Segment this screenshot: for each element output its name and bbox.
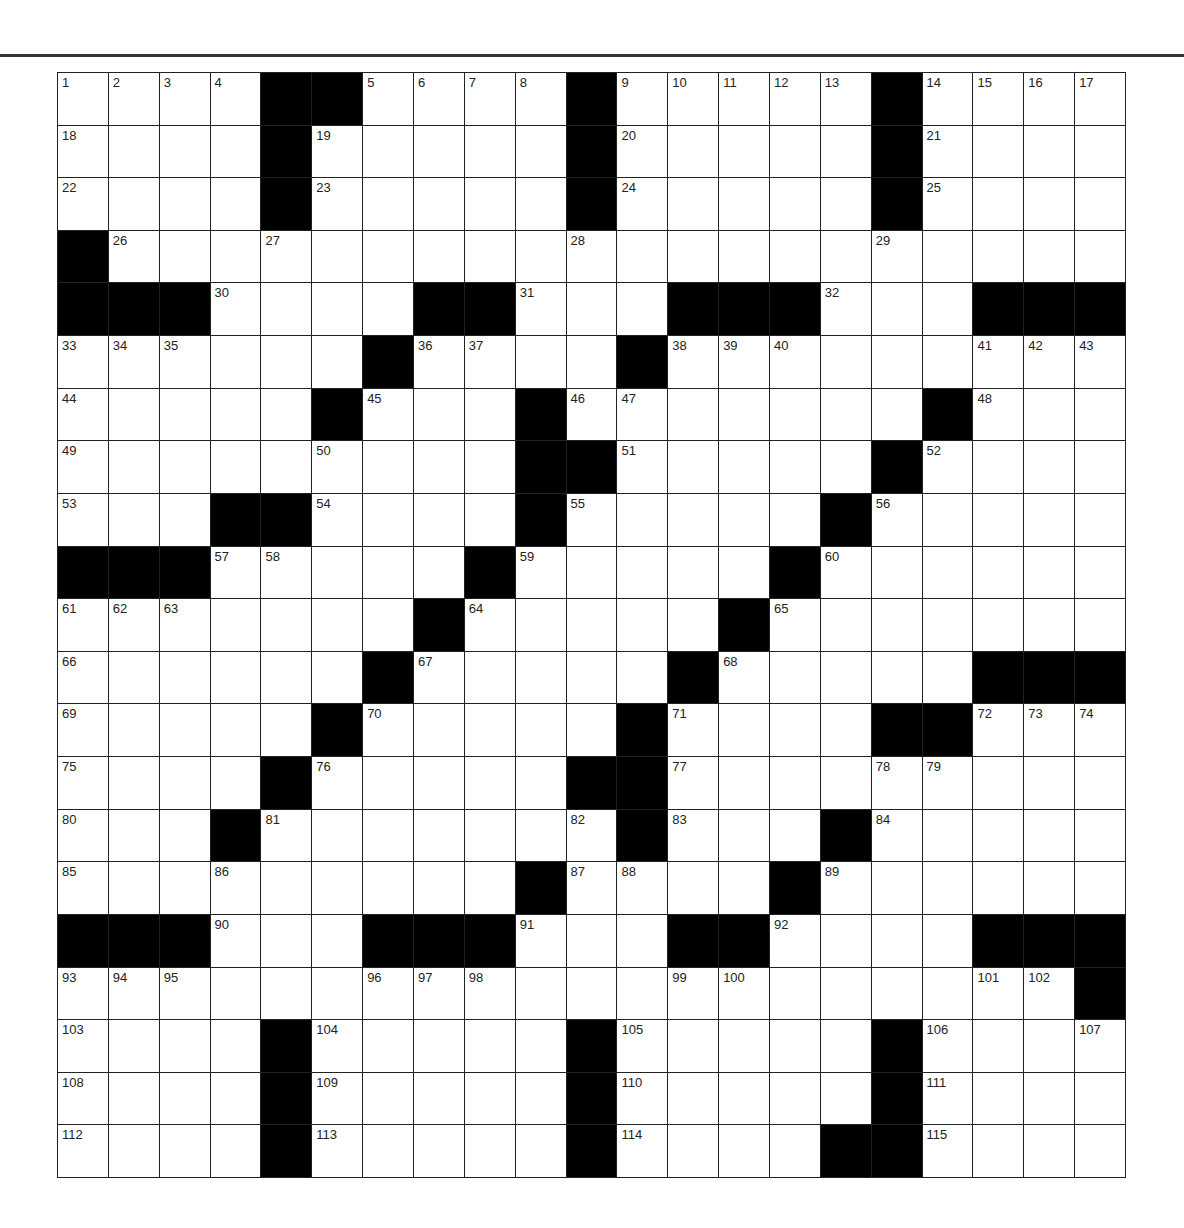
grid-cell[interactable] [109,494,159,546]
grid-cell[interactable] [821,968,871,1020]
grid-cell[interactable] [973,1125,1023,1177]
grid-cell[interactable] [923,283,973,335]
grid-cell[interactable]: 99 [668,968,718,1020]
grid-cell[interactable] [668,389,718,441]
grid-cell[interactable] [261,968,311,1020]
grid-cell[interactable]: 15 [973,73,1023,125]
grid-cell[interactable] [312,810,362,862]
grid-cell[interactable] [211,1073,261,1125]
grid-cell[interactable] [312,231,362,283]
grid-cell[interactable] [973,126,1023,178]
grid-cell[interactable]: 18 [58,126,108,178]
grid-cell[interactable]: 33 [58,336,108,388]
grid-cell[interactable] [719,810,769,862]
grid-cell[interactable] [414,1073,464,1125]
grid-cell[interactable] [821,231,871,283]
grid-cell[interactable] [465,704,515,756]
grid-cell[interactable]: 110 [617,1073,667,1125]
grid-cell[interactable] [923,915,973,967]
grid-cell[interactable] [211,757,261,809]
grid-cell[interactable] [516,126,566,178]
grid-cell[interactable]: 60 [821,547,871,599]
grid-cell[interactable]: 37 [465,336,515,388]
grid-cell[interactable] [160,1073,210,1125]
grid-cell[interactable] [1075,231,1125,283]
grid-cell[interactable] [363,283,413,335]
grid-cell[interactable]: 28 [567,231,617,283]
grid-cell[interactable]: 14 [923,73,973,125]
grid-cell[interactable]: 94 [109,968,159,1020]
grid-cell[interactable] [160,652,210,704]
grid-cell[interactable] [567,283,617,335]
grid-cell[interactable]: 9 [617,73,667,125]
grid-cell[interactable] [465,757,515,809]
grid-cell[interactable] [261,283,311,335]
grid-cell[interactable]: 12 [770,73,820,125]
grid-cell[interactable] [617,915,667,967]
grid-cell[interactable] [668,178,718,230]
grid-cell[interactable] [1024,126,1074,178]
grid-cell[interactable] [973,494,1023,546]
grid-cell[interactable]: 83 [668,810,718,862]
grid-cell[interactable] [1075,757,1125,809]
grid-cell[interactable] [923,231,973,283]
grid-cell[interactable]: 67 [414,652,464,704]
grid-cell[interactable] [973,810,1023,862]
grid-cell[interactable] [211,126,261,178]
grid-cell[interactable]: 75 [58,757,108,809]
grid-cell[interactable]: 79 [923,757,973,809]
grid-cell[interactable] [363,126,413,178]
grid-cell[interactable] [973,599,1023,651]
grid-cell[interactable] [567,915,617,967]
grid-cell[interactable]: 23 [312,178,362,230]
grid-cell[interactable]: 20 [617,126,667,178]
grid-cell[interactable]: 84 [872,810,922,862]
grid-cell[interactable] [1075,599,1125,651]
grid-cell[interactable]: 81 [261,810,311,862]
grid-cell[interactable] [923,494,973,546]
grid-cell[interactable]: 42 [1024,336,1074,388]
grid-cell[interactable]: 77 [668,757,718,809]
grid-cell[interactable]: 54 [312,494,362,546]
grid-cell[interactable] [872,389,922,441]
grid-cell[interactable]: 8 [516,73,566,125]
grid-cell[interactable] [1024,494,1074,546]
grid-cell[interactable] [1024,547,1074,599]
grid-cell[interactable]: 65 [770,599,820,651]
grid-cell[interactable] [211,968,261,1020]
grid-cell[interactable] [719,441,769,493]
grid-cell[interactable] [1075,1073,1125,1125]
grid-cell[interactable] [261,704,311,756]
grid-cell[interactable]: 36 [414,336,464,388]
grid-cell[interactable]: 66 [58,652,108,704]
grid-cell[interactable] [160,441,210,493]
grid-cell[interactable] [160,1125,210,1177]
grid-cell[interactable] [312,862,362,914]
grid-cell[interactable]: 76 [312,757,362,809]
grid-cell[interactable]: 17 [1075,73,1125,125]
grid-cell[interactable]: 40 [770,336,820,388]
grid-cell[interactable] [516,1125,566,1177]
grid-cell[interactable]: 70 [363,704,413,756]
grid-cell[interactable] [668,599,718,651]
grid-cell[interactable] [973,1020,1023,1072]
grid-cell[interactable]: 97 [414,968,464,1020]
grid-cell[interactable] [465,810,515,862]
grid-cell[interactable] [821,915,871,967]
grid-cell[interactable] [1024,1073,1074,1125]
grid-cell[interactable] [617,968,667,1020]
grid-cell[interactable]: 27 [261,231,311,283]
grid-cell[interactable]: 105 [617,1020,667,1072]
grid-cell[interactable] [414,862,464,914]
grid-cell[interactable]: 41 [973,336,1023,388]
grid-cell[interactable] [516,704,566,756]
grid-cell[interactable] [770,968,820,1020]
grid-cell[interactable] [414,389,464,441]
grid-cell[interactable]: 47 [617,389,667,441]
grid-cell[interactable]: 16 [1024,73,1074,125]
grid-cell[interactable] [567,599,617,651]
grid-cell[interactable]: 6 [414,73,464,125]
grid-cell[interactable] [109,704,159,756]
grid-cell[interactable] [211,1125,261,1177]
grid-cell[interactable] [414,704,464,756]
